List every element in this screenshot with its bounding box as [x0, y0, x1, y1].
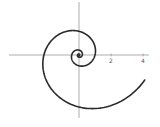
x-tick-label: 2: [109, 57, 113, 64]
x-tick-label: 4: [141, 57, 145, 64]
spiral-chart: 24: [0, 0, 160, 127]
spiral-curve: [43, 31, 145, 109]
